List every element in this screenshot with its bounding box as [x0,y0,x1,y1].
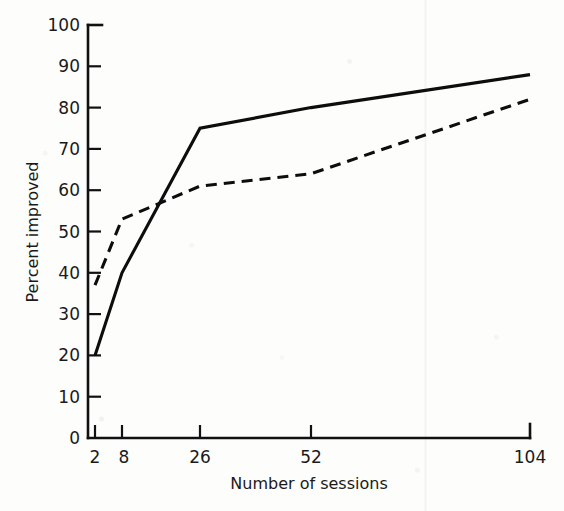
x-tick-label-26: 26 [189,447,211,467]
y-tick-label-90: 90 [58,56,80,76]
x-tick-label-52: 52 [300,447,322,467]
y-tick-label-80: 80 [58,98,80,118]
y-tick-label-100: 100 [48,15,80,35]
axis-lines [88,25,530,438]
y-tick-label-30: 30 [58,304,80,324]
x-axis-tick-labels: 2 8 26 52 104 [90,447,547,467]
line-chart-plot: 100 90 80 70 60 50 40 30 20 10 0 2 8 26 … [0,0,564,511]
y-axis-tick-labels: 100 90 80 70 60 50 40 30 20 10 0 [48,15,80,448]
y-tick-label-70: 70 [58,139,80,159]
y-axis-title: Percent improved [23,162,42,303]
y-tick-label-20: 20 [58,345,80,365]
y-tick-label-0: 0 [69,428,80,448]
series-line-solid [95,75,530,356]
y-tick-label-50: 50 [58,222,80,242]
x-axis-title: Number of sessions [230,474,387,493]
y-tick-label-40: 40 [58,263,80,283]
x-tick-label-8: 8 [119,447,130,467]
x-tick-label-104: 104 [514,447,546,467]
x-axis-ticks [95,425,311,438]
series-line-dashed [95,99,530,285]
chart-figure: 100 90 80 70 60 50 40 30 20 10 0 2 8 26 … [0,0,564,511]
x-tick-label-2: 2 [90,447,101,467]
y-tick-label-60: 60 [58,180,80,200]
y-tick-label-10: 10 [58,387,80,407]
